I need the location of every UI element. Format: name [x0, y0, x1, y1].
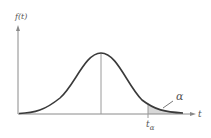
alpha-label: α	[176, 90, 184, 103]
critical-subscript: α	[150, 124, 155, 132]
t-distribution-diagram: f(t) t α tα	[0, 0, 211, 138]
critical-value-label: tα	[146, 119, 155, 132]
y-axis-label: f(t)	[14, 12, 27, 21]
alpha-pointer	[163, 101, 173, 108]
x-axis-arrow-icon	[190, 112, 196, 116]
x-axis-label: t	[198, 109, 202, 119]
y-axis-arrow-icon	[16, 25, 20, 31]
